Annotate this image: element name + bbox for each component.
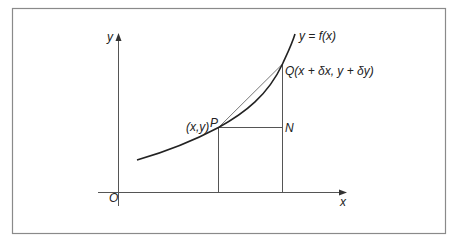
point-p-label: P <box>210 116 218 130</box>
point-q-label: Q(x + δx, y + δy) <box>285 64 374 78</box>
derivative-diagram: y O x y = f(x) Q(x + δx, y + δy) (x,y) P… <box>0 0 453 239</box>
point-p-coord-label: (x,y) <box>186 120 209 134</box>
diagram-canvas: y O x y = f(x) Q(x + δx, y + δy) (x,y) P… <box>0 0 453 239</box>
chord-pq <box>219 64 283 128</box>
origin-label: O <box>109 191 118 205</box>
y-axis-arrow-icon <box>116 33 122 41</box>
curve-f-of-x <box>137 34 295 160</box>
x-axis-label: x <box>339 195 347 209</box>
y-axis-label: y <box>106 30 114 44</box>
curve-label: y = f(x) <box>298 29 336 43</box>
point-n-label: N <box>285 121 294 135</box>
